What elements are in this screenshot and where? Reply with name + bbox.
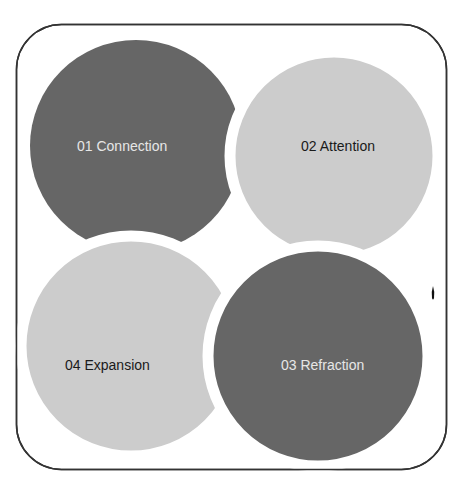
label-expansion: 04 Expansion: [65, 357, 150, 373]
label-attention: 02 Attention: [301, 138, 375, 154]
circle-attention: [230, 52, 438, 260]
label-connection: 01 Connection: [77, 138, 167, 154]
cycle-diagram: 01 Connection 02 Attention 03 Refraction…: [0, 0, 464, 483]
circle-refraction: [208, 246, 428, 466]
label-refraction: 03 Refraction: [281, 357, 364, 373]
